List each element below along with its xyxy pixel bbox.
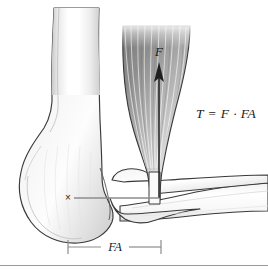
force-label: F	[154, 44, 164, 59]
forearm	[110, 169, 268, 223]
humerus	[19, 6, 113, 243]
figure-canvas: × F T = F · FA FA	[0, 0, 268, 279]
torque-formula: T = F · FA	[196, 106, 257, 121]
pivot-marker: ×	[65, 192, 71, 203]
anatomical-figure: × F T = F · FA FA	[0, 0, 268, 279]
moment-arm-label: FA	[107, 240, 122, 254]
